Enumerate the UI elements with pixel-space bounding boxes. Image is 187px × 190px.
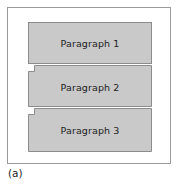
figure-container: Paragraph 1 Paragraph 2 Paragraph 3 (a) — [0, 0, 187, 190]
paragraph-block-1-label: Paragraph 1 — [29, 38, 151, 49]
paragraph-block-1: Paragraph 1 — [28, 22, 152, 64]
figure-outer-frame: Paragraph 1 Paragraph 2 Paragraph 3 — [7, 7, 171, 164]
paragraph-block-3-label: Paragraph 3 — [28, 125, 152, 136]
paragraph-block-2-label: Paragraph 2 — [28, 82, 152, 93]
figure-caption: (a) — [8, 167, 23, 180]
paragraph-block-3: Paragraph 3 — [28, 108, 152, 152]
paragraph-block-2: Paragraph 2 — [28, 65, 152, 107]
